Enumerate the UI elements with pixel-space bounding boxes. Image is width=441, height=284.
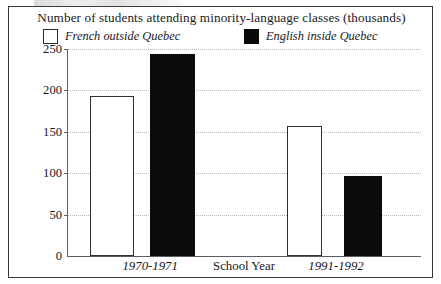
y-axis-line [67,49,68,257]
y-tick-label: 50 [49,207,62,222]
y-tick-mark [64,173,68,174]
y-tick-label: 0 [56,249,62,264]
bar [150,54,195,256]
y-tick-mark [64,215,68,216]
x-label-group-1: 1970-1971 [122,259,177,274]
y-tick-label: 200 [43,83,62,98]
chart-figure: Number of students attending minority-la… [0,0,441,284]
y-tick-label: 150 [43,124,62,139]
bar [287,126,321,256]
y-tick-mark [64,49,68,50]
y-tick-mark [64,132,68,133]
gridline [68,49,421,50]
x-axis-title: School Year [213,259,275,274]
chart-title: Number of students attending minority-la… [9,10,434,26]
legend-label: English inside Quebec [266,29,378,44]
gridline [68,90,421,91]
legend-label: French outside Quebec [65,29,180,44]
legend-item-french-outside-quebec: French outside Quebec [43,29,180,44]
y-tick-label: 100 [43,166,62,181]
x-axis-labels: 1970-1971 School Year 1991-1992 [67,259,421,279]
filled-square-icon [244,29,259,44]
chart-frame: Number of students attending minority-la… [8,6,433,278]
plot-area: 050100150200250 [67,49,421,257]
x-label-group-2: 1991-1992 [308,259,363,274]
chart-legend: French outside Quebec English inside Que… [9,29,434,47]
legend-item-english-inside-quebec: English inside Quebec [244,29,378,44]
y-tick-mark [64,90,68,91]
bar [90,96,134,256]
y-tick-label: 250 [43,42,62,57]
bar [344,176,382,256]
